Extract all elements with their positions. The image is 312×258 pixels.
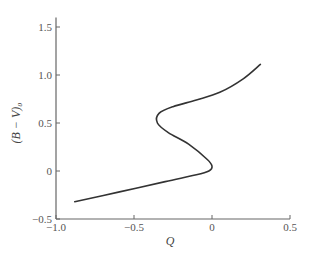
x-axis-ticks: −1.0−0.500.5 [46,215,297,233]
x-tick-label: −0.5 [124,221,144,233]
x-tick-label: 0.5 [283,221,297,233]
y-tick-label: −0.5 [32,213,52,225]
y-tick-label: 1.5 [38,21,52,33]
y-tick-label: 0.5 [38,117,52,129]
axes [56,17,290,219]
y-tick-label: 0 [47,165,53,177]
y-tick-label: 1.0 [38,69,52,81]
x-axis-label: Q [166,234,175,248]
y-axis-label: (B − V)₀ [9,103,23,144]
data-curve [75,64,261,201]
x-tick-label: 0 [209,221,215,233]
chart-canvas: −1.0−0.500.5 −0.500.51.01.5 Q (B − V)₀ [0,0,312,258]
